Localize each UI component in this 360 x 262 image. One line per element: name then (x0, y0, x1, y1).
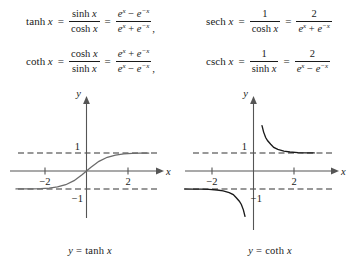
graphs-row: x y 1 −1 −2 2 y=tanh x (0, 88, 360, 262)
formula-sech: sechx = 1 cosh x = 2 ex + e−x (206, 8, 332, 35)
caption-variable: x (107, 245, 112, 256)
coth-plot-svg: x y 1 −1 −2 2 (180, 88, 360, 238)
x-axis-label: x (165, 166, 171, 177)
y-axis-label: y (242, 88, 248, 99)
fraction-bar (250, 61, 279, 62)
formula-sech-fraction-1: 1 cosh x (250, 8, 281, 35)
formula-sech-fraction-2: 2 ex + e−x (296, 8, 331, 35)
fraction-bar (69, 21, 100, 22)
y-axis-arrowhead (250, 96, 257, 104)
formula-coth-fraction-1: cosh x sinh x (69, 48, 100, 75)
tanh-caption: y=tanh x (0, 245, 180, 256)
coth-caption: y=coth x (180, 245, 360, 256)
formula-tanh-equals-1: = (53, 15, 69, 27)
formula-coth: cothx = cosh x sinh x = ex + e−x ex − e−… (26, 48, 155, 75)
y-tick-label-minus-1: −1 (72, 193, 83, 204)
fraction-numerator: cosh x (69, 48, 100, 60)
formula-sech-lhs: sechx (206, 15, 233, 27)
fraction-numerator: sinh x (70, 8, 99, 20)
fraction-numerator: ex + e−x (116, 48, 151, 60)
formula-sech-equals-2: = (280, 15, 296, 27)
fraction-denominator: cosh x (69, 23, 100, 35)
y-axis-arrowhead (83, 96, 90, 104)
fraction-bar (69, 61, 100, 62)
x-tick-label-minus-2: −2 (206, 176, 217, 187)
caption-function: tanh (85, 245, 104, 256)
fraction-numerator: 1 (260, 8, 269, 20)
fraction-denominator: sinh x (250, 63, 279, 75)
x-axis-arrowhead (156, 168, 164, 175)
x-tick-label-2: 2 (291, 176, 296, 187)
formula-coth-equals-2: = (100, 55, 116, 67)
fraction-numerator: 2 (308, 48, 317, 60)
tanh-graph: x y 1 −1 −2 2 y=tanh x (0, 88, 180, 262)
coth-axes (185, 96, 339, 230)
caption-variable: x (287, 245, 292, 256)
caption-equals: = (253, 245, 265, 256)
y-tick-label-1: 1 (242, 141, 247, 152)
formula-csch-lhs: cschx (206, 55, 233, 67)
x-axis-label: x (340, 166, 346, 177)
formula-tanh: tanhx = sinh x cosh x = ex − e−x ex + e−… (26, 8, 155, 35)
formula-sech-equals-1: = (233, 15, 249, 27)
x-axis-arrowhead (331, 168, 339, 175)
fraction-bar (250, 21, 281, 22)
fraction-denominator: ex − e−x (116, 63, 151, 75)
formula-block: tanhx = sinh x cosh x = ex − e−x ex + e−… (0, 0, 360, 88)
tanh-axes (10, 96, 164, 218)
formula-coth-trailing-comma: , (151, 62, 155, 75)
x-tick-label-minus-2: −2 (39, 176, 50, 187)
formula-coth-lhs: cothx (26, 55, 53, 67)
formula-tanh-fraction-2: ex − e−x ex + e−x (116, 8, 151, 35)
fraction-denominator: ex − e−x (295, 63, 330, 75)
coth-curve-positive-branch (262, 126, 314, 153)
formula-coth-fraction-2: ex + e−x ex − e−x (116, 48, 151, 75)
caption-equals: = (73, 245, 85, 256)
fraction-denominator: sinh x (70, 63, 99, 75)
formula-csch: cschx = 1 sinh x = 2 ex − e−x (206, 48, 330, 75)
formula-tanh-equals-2: = (100, 15, 116, 27)
coth-curve-negative-branch (185, 189, 245, 216)
formula-tanh-fraction-1: sinh x cosh x (69, 8, 100, 35)
x-tick-label-2: 2 (125, 176, 130, 187)
formula-csch-equals-2: = (278, 55, 294, 67)
fraction-denominator: cosh x (250, 23, 281, 35)
formula-coth-equals-1: = (53, 55, 69, 67)
y-tick-label-minus-1: −1 (251, 193, 262, 204)
formula-tanh-trailing-comma: , (151, 22, 155, 35)
tanh-plot-svg: x y 1 −1 −2 2 (0, 88, 180, 238)
fraction-denominator: ex + e−x (116, 23, 151, 35)
formula-csch-fraction-1: 1 sinh x (250, 48, 279, 75)
formula-csch-equals-1: = (233, 55, 249, 67)
fraction-numerator: 2 (310, 8, 319, 20)
y-axis-label: y (75, 88, 81, 99)
formula-tanh-lhs: tanhx (26, 15, 53, 27)
formula-csch-fraction-2: 2 ex − e−x (295, 48, 330, 75)
coth-labels: x y 1 −1 −2 2 (206, 88, 346, 204)
fraction-denominator: ex + e−x (296, 23, 331, 35)
fraction-numerator: 1 (259, 48, 268, 60)
fraction-numerator: ex − e−x (116, 8, 151, 20)
caption-function: coth (265, 245, 284, 256)
coth-graph: x y 1 −1 −2 2 y=coth x (180, 88, 360, 262)
y-tick-label-1: 1 (75, 141, 80, 152)
